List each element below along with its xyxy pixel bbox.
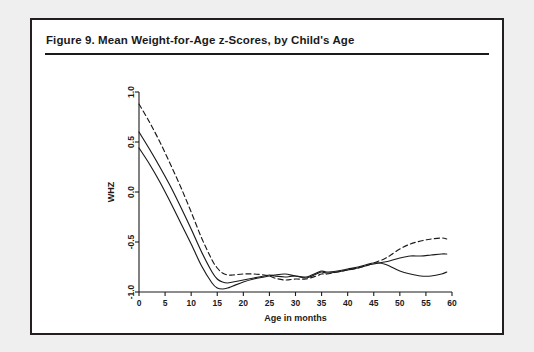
x-tick-label: 40 [343, 298, 353, 308]
page-background: Figure 9. Mean Weight-for-Age z-Scores, … [0, 0, 534, 352]
x-tick-label: 55 [421, 298, 431, 308]
series-line-men [139, 148, 447, 289]
x-tick-label: 30 [291, 298, 301, 308]
x-tick-label: 45 [369, 298, 379, 308]
x-tick-label: 50 [395, 298, 405, 308]
figure-container: Figure 9. Mean Weight-for-Age z-Scores, … [30, 18, 504, 335]
x-tick-label: 20 [239, 298, 249, 308]
y-axis-title: WHZ [106, 181, 116, 202]
y-tick-label: -1.0 [126, 284, 136, 299]
chart-plot-area: -1.0-0.50.00.51.0WHZ05101520253035404550… [32, 56, 502, 334]
series-line-total [139, 132, 447, 283]
x-tick-label: 15 [213, 298, 223, 308]
x-tick-label: 5 [163, 298, 168, 308]
x-tick-label: 35 [317, 298, 327, 308]
line-chart: -1.0-0.50.00.51.0WHZ05101520253035404550… [32, 56, 502, 334]
y-tick-label: -0.5 [126, 234, 136, 249]
x-tick-label: 60 [447, 298, 457, 308]
y-tick-label: 0.5 [126, 136, 136, 148]
x-tick-label: 10 [186, 298, 196, 308]
x-axis-title: Age in months [264, 313, 327, 323]
y-tick-label: 0.0 [126, 186, 136, 198]
y-tick-label: 1.0 [126, 86, 136, 98]
title-divider [45, 53, 489, 55]
series-line-women [139, 104, 447, 280]
x-tick-label: 0 [137, 298, 142, 308]
figure-title: Figure 9. Mean Weight-for-Age z-Scores, … [46, 34, 354, 46]
x-tick-label: 25 [265, 298, 275, 308]
